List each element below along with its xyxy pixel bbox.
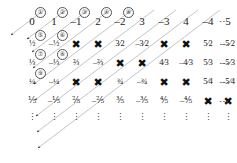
column-ellipsis: ⋮ <box>46 113 62 122</box>
column-ellipsis: ⋮ <box>112 113 128 122</box>
rational-entry: ⅕ <box>21 96 43 105</box>
cantor-enumeration-figure: 0①1②–1③2④–2⑧3–34–45–5⋯½⑤–½⑥✖✖3⁄2–3⁄2✖✖5⁄… <box>0 0 237 163</box>
rational-entry: ⅔ <box>65 58 87 67</box>
reducible-cross-icon: ✖ <box>153 77 175 88</box>
reducible-cross-icon: ✖ <box>175 77 197 88</box>
reducible-cross-icon: ✖ <box>131 58 153 69</box>
column-ellipsis: ⋮ <box>178 113 194 122</box>
column-ellipsis: ⋮ <box>220 113 236 122</box>
reducible-cross-icon: ✖ <box>175 39 197 50</box>
rational-entry: –⅗ <box>131 96 153 105</box>
row-ellipsis: ⋯ <box>216 17 232 27</box>
row-ellipsis: ⋯ <box>216 40 232 50</box>
row-ellipsis: ⋯ <box>216 97 232 107</box>
reducible-cross-icon: ✖ <box>87 77 109 88</box>
reducible-cross-icon: ✖ <box>153 39 175 50</box>
column-ellipsis: ⋮ <box>68 113 84 122</box>
rational-entry: –3 <box>153 16 175 27</box>
row-ellipsis: ⋯ <box>216 59 232 69</box>
rational-entry: –3⁄2 <box>131 39 153 48</box>
rational-entry: ¾ <box>109 77 131 86</box>
rational-entry: –¾ <box>131 77 153 86</box>
rational-entry: 4⁄3 <box>153 58 175 67</box>
column-ellipsis: ⋮ <box>200 113 216 122</box>
rational-entry: ⅖ <box>65 96 87 105</box>
rational-entry: –⅔ <box>87 58 109 67</box>
row-ellipsis: ⋯ <box>216 78 232 88</box>
reducible-cross-icon: ✖ <box>65 39 87 50</box>
rational-entry: –⅕ <box>43 96 65 105</box>
rational-entry: –⅖ <box>87 96 109 105</box>
reducible-cross-icon: ✖ <box>109 58 131 69</box>
rational-entry: –⅘ <box>175 96 197 105</box>
reducible-cross-icon: ✖ <box>87 39 109 50</box>
rational-entry: ⅗ <box>109 96 131 105</box>
rationals-grid: 0①1②–1③2④–2⑧3–34–45–5⋯½⑤–½⑥✖✖3⁄2–3⁄2✖✖5⁄… <box>0 0 237 163</box>
rational-entry: –¼ <box>43 77 65 86</box>
rational-entry: 4 <box>175 16 197 27</box>
column-ellipsis: ⋮ <box>90 113 106 122</box>
reducible-cross-icon: ✖ <box>65 77 87 88</box>
rational-entry: 3 <box>131 16 153 27</box>
rational-entry: 3⁄2 <box>109 39 131 48</box>
column-ellipsis: ⋮ <box>134 113 150 122</box>
rational-entry: ⅘ <box>153 96 175 105</box>
rational-entry: –4⁄3 <box>175 58 197 67</box>
column-ellipsis: ⋮ <box>24 113 40 122</box>
column-ellipsis: ⋮ <box>156 113 172 122</box>
